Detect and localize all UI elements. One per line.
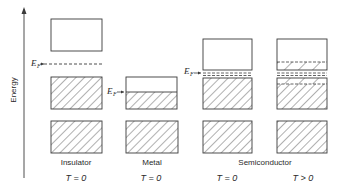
insulator-valence-band [51,77,102,109]
svg-text:E: E [106,86,113,96]
semiconductor-t0-lower-band [203,121,252,153]
semiconductor-tgt0-holes-region [277,78,327,84]
semiconductor-t0-conduction-band [203,39,252,70]
insulator-label: Insulator [61,158,92,167]
svg-text:E: E [183,66,190,76]
energy-axis-label: Energy [9,77,18,102]
semiconductor-tgt0-lower-band [277,121,327,153]
semiconductor-t0-temp-label: T = 0 [217,173,238,183]
semiconductor-tgt0-filled-valence [277,84,327,109]
energy-axis: Energy [9,7,27,178]
metal-label: Metal [142,158,162,167]
svg-text:F: F [189,71,194,77]
metal-temp-label: T = 0 [141,173,162,183]
band-diagram: Energy E F E F E F [0,0,338,191]
insulator-lower-band [51,121,102,153]
insulator-conduction-band [51,19,102,51]
metal-fermi-label: E F [106,86,124,97]
semiconductor-t0-valence-band [203,78,252,109]
metal-filled-states [126,92,177,109]
axis-arrow-icon [22,7,27,14]
semiconductor-tgt0-column [277,39,327,153]
insulator-column: E F [30,19,102,153]
semiconductor-label: Semiconductor [238,158,292,167]
insulator-temp-label: T = 0 [66,173,87,183]
insulator-fermi-label: E F [30,58,44,69]
metal-lower-band [126,121,178,153]
semiconductor-fermi-label: E F [183,66,201,77]
semiconductor-tgt0-excited-electrons [277,62,327,70]
metal-column: E F [106,77,178,153]
svg-text:E: E [30,58,37,68]
semiconductor-tgt0-temp-label: T > 0 [293,173,314,183]
semiconductor-t0-column: E F [183,39,252,153]
svg-text:F: F [112,91,117,97]
